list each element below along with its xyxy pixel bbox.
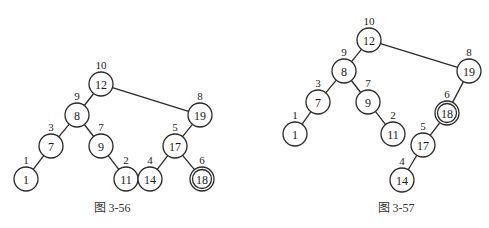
node-label: 10: [96, 59, 108, 71]
tree-node-12: 1210: [357, 15, 381, 52]
node-value: 14: [144, 173, 156, 187]
node-label: 1: [23, 154, 29, 166]
edge-8-7: [59, 124, 70, 137]
node-label: 9: [341, 46, 347, 58]
tree-nodes: 121089198739717511112144186: [14, 59, 214, 191]
node-value: 17: [417, 139, 429, 153]
node-label: 4: [399, 155, 405, 167]
edge-17-14: [408, 155, 417, 169]
edge-7-1: [302, 112, 311, 125]
tree-node-14: 144: [390, 155, 414, 192]
node-label: 4: [147, 154, 153, 166]
figure-3-57: 121089198739718611112175144 图 3-57: [283, 15, 481, 215]
node-value: 1: [292, 128, 298, 142]
node-value: 8: [341, 65, 347, 79]
node-value: 9: [98, 140, 104, 154]
edge-7-1: [33, 156, 44, 170]
edge-8-7: [326, 80, 337, 93]
node-value: 19: [463, 65, 475, 79]
node-value: 17: [169, 140, 181, 154]
node-label: 8: [466, 46, 472, 58]
edge-18-17: [430, 123, 440, 136]
node-label: 7: [365, 77, 371, 89]
tree-node-1: 11: [14, 154, 38, 191]
node-value: 12: [363, 34, 375, 48]
tree-node-19: 198: [188, 90, 212, 127]
tree-node-7: 73: [39, 121, 63, 158]
tree-node-18: 186: [190, 154, 214, 191]
node-label: 3: [48, 121, 54, 133]
edge-8-9: [84, 124, 93, 136]
edge-12-8: [352, 49, 362, 61]
tree-node-18: 186: [435, 88, 459, 125]
figure-caption: 图 3-56: [94, 201, 131, 215]
node-value: 14: [396, 174, 408, 188]
node-value: 12: [95, 78, 107, 92]
node-value: 11: [387, 128, 399, 142]
tree-node-7: 73: [306, 77, 330, 114]
tree-node-19: 198: [457, 46, 481, 83]
edge-12-8: [84, 93, 93, 105]
edge-12-19: [112, 88, 188, 112]
node-label: 8: [197, 90, 203, 102]
node-value: 9: [365, 96, 371, 110]
edge-19-18: [453, 82, 464, 103]
node-value: 18: [196, 173, 208, 187]
tree-node-11: 112: [381, 109, 405, 146]
node-label: 2: [123, 154, 129, 166]
node-label: 5: [420, 120, 426, 132]
edge-9-11: [108, 156, 119, 170]
node-label: 6: [444, 88, 450, 100]
tree-node-9: 97: [89, 121, 113, 158]
node-value: 7: [48, 140, 54, 154]
node-label: 10: [364, 15, 376, 27]
tree-node-17: 175: [163, 121, 187, 158]
node-label: 3: [315, 77, 321, 89]
node-value: 19: [194, 109, 206, 123]
node-label: 1: [292, 109, 298, 121]
edge-9-11: [375, 111, 385, 124]
node-value: 1: [23, 173, 29, 187]
edge-19-17: [183, 124, 193, 136]
edge-8-9: [351, 80, 360, 92]
node-value: 7: [315, 96, 321, 110]
node-label: 7: [98, 121, 104, 133]
tree-node-8: 89: [65, 90, 89, 127]
node-label: 5: [172, 121, 178, 133]
edge-12-19: [380, 44, 457, 68]
tree-node-17: 175: [411, 120, 435, 157]
tree-node-9: 97: [356, 77, 380, 114]
node-label: 2: [390, 109, 396, 121]
tree-node-8: 89: [332, 46, 356, 83]
node-value: 11: [120, 173, 132, 187]
tree-node-14: 144: [138, 154, 162, 191]
tree-nodes: 121089198739718611112175144: [283, 15, 481, 192]
node-value: 8: [74, 109, 80, 123]
figure-caption: 图 3-57: [378, 201, 415, 215]
tree-node-12: 1210: [89, 59, 113, 96]
tree-diagrams: 121089198739717511112144186 图 3-56 12108…: [0, 0, 489, 228]
node-value: 18: [441, 107, 453, 121]
edge-17-14: [157, 156, 168, 170]
figure-3-56: 121089198739717511112144186 图 3-56: [14, 59, 214, 215]
node-label: 6: [199, 154, 205, 166]
tree-node-1: 11: [283, 109, 307, 146]
tree-node-11: 112: [114, 154, 138, 191]
node-label: 9: [74, 90, 80, 102]
edge-17-18: [183, 155, 195, 169]
